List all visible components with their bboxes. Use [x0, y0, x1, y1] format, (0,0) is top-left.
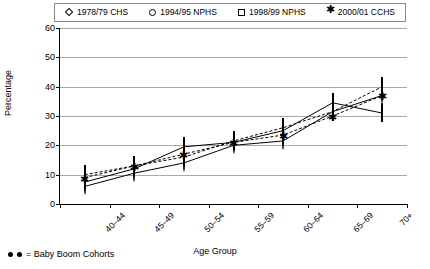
x-axis-tick	[357, 204, 358, 208]
x-axis-tick-label: 40–44	[104, 211, 127, 234]
x-axis-tick-label: 60–64	[302, 211, 325, 234]
baby-boom-dot-icon	[17, 252, 22, 257]
x-axis-tick-label: 50–54	[203, 211, 226, 234]
y-axis-tick-label: 40	[45, 82, 55, 91]
diamond-marker-icon	[65, 8, 74, 17]
data-point: ✱	[279, 126, 288, 144]
y-axis-tick-label: 20	[45, 141, 55, 150]
legend-item-0: 1978/79 CHS	[65, 8, 128, 17]
y-axis-title: Percentage	[3, 70, 13, 116]
x-axis-tick-label: 55–59	[252, 211, 275, 234]
footnote: = Baby Boom Cohorts	[8, 249, 114, 259]
data-point: ✱	[328, 107, 337, 125]
data-point: ✱	[80, 169, 89, 187]
x-axis-tick	[258, 204, 259, 208]
y-axis-tick-label: 30	[45, 112, 55, 121]
y-axis-tick-label: 60	[45, 24, 55, 33]
data-point: ✱	[130, 157, 139, 175]
y-axis-tick-label: 0	[50, 200, 55, 209]
asterisk-marker-icon: ✱	[326, 8, 335, 17]
legend-item-label: 1978/79 CHS	[77, 8, 128, 17]
data-series-layer: ✱✱✱✱✱✱✱	[60, 28, 407, 204]
chart-legend: 1978/79 CHS1994/95 NPHS1998/99 NPHS✱2000…	[54, 3, 406, 22]
plot-area: 0102030405060 40–4445–4950–5455–5960–646…	[59, 28, 407, 205]
data-point: ✱	[229, 133, 238, 151]
data-point	[381, 104, 383, 122]
square-marker-icon	[237, 8, 246, 17]
x-axis-tick	[60, 204, 61, 208]
circle-marker-icon	[148, 8, 157, 17]
footnote-label: = Baby Boom Cohorts	[26, 249, 114, 259]
legend-item-label: 2000/01 CCHS	[338, 8, 395, 17]
x-axis-tick-label: 45–49	[153, 211, 176, 234]
x-axis-tick	[407, 204, 408, 208]
y-axis-tick-label: 10	[45, 170, 55, 179]
x-axis-tick-label: 65–69	[352, 211, 375, 234]
x-axis-tick-label: 70+	[398, 211, 414, 227]
legend-item-label: 1998/99 NPHS	[249, 8, 306, 17]
legend-item-2: 1998/99 NPHS	[237, 8, 306, 17]
x-axis-tick	[159, 204, 160, 208]
series-lines	[60, 28, 407, 204]
legend-item-3: ✱2000/01 CCHS	[326, 8, 395, 17]
y-axis-tick-label: 50	[45, 53, 55, 62]
legend-item-label: 1994/95 NPHS	[160, 8, 217, 17]
x-axis-tick	[110, 204, 111, 208]
data-point: ✱	[378, 86, 387, 104]
x-axis-tick	[209, 204, 210, 208]
legend-item-1: 1994/95 NPHS	[148, 8, 217, 17]
data-point: ✱	[179, 145, 188, 163]
baby-boom-dot-icon	[8, 252, 13, 257]
x-axis-tick	[308, 204, 309, 208]
